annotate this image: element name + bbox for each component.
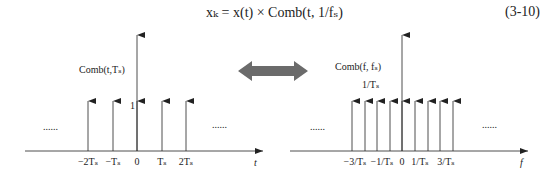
right-tick: 1/Tₛ [411,156,428,167]
left-height-label: 1 [130,100,135,111]
right-height-label: 1/Tₛ [362,79,379,90]
double-arrow-icon [238,61,308,81]
left-tick: −Tₛ [105,156,120,167]
left-ellipsis-right: ...... [212,119,227,130]
right-comb-plot: Comb(f, fₛ) 1/Tₛ ...... ...... f −3/Tₛ −… [290,35,528,168]
left-plot-title: Comb(t,Tₛ) [79,64,125,76]
right-plot-title: Comb(f, fₛ) [335,61,381,73]
right-tick: −1/Tₛ [371,156,394,167]
right-ellipsis-left: ...... [310,121,325,132]
right-tick: −3/Tₛ [344,156,367,167]
left-tick: 0 [135,156,140,167]
comb-diagram: Comb(t,Tₛ) 1 ...... ...... t −2Tₛ −Tₛ 0 … [0,0,550,178]
left-impulses [88,101,186,151]
right-impulses [352,101,453,151]
left-axis-label: t [254,157,257,168]
right-ellipsis-right: ...... [482,119,497,130]
right-axis-label: f [520,157,524,168]
left-tick: −2Tₛ [78,156,98,167]
right-tick: 0 [400,156,405,167]
left-comb-plot: Comb(t,Tₛ) 1 ...... ...... t −2Tₛ −Tₛ 0 … [25,35,263,168]
left-tick: 2Tₛ [179,156,193,167]
left-tick: Tₛ [157,156,166,167]
left-ellipsis-left: ...... [43,121,58,132]
right-tick: 3/Tₛ [437,156,454,167]
